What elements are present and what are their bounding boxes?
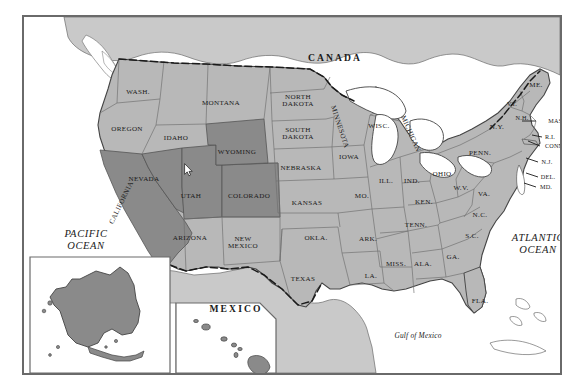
- map-screenshot: WASH.OREGONIDAHOMONTANAWYOMINGNEVADAUTAH…: [0, 0, 585, 386]
- map-frame: WASH.OREGONIDAHOMONTANAWYOMINGNEVADAUTAH…: [22, 15, 562, 375]
- leader-lines: [24, 17, 560, 373]
